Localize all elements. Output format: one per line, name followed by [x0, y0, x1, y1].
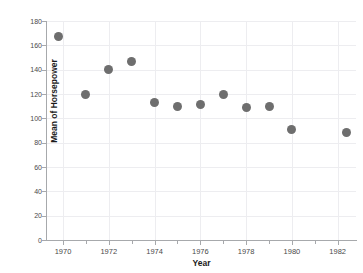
y-axis-tick: [42, 191, 47, 192]
x-axis-tick: [338, 241, 339, 245]
x-axis-tick-label: 1972: [89, 247, 129, 256]
y-axis-line: [46, 21, 47, 241]
x-axis-minor-tick: [269, 241, 270, 244]
y-axis-tick-label: 180: [4, 18, 42, 25]
y-axis-tick-label: 20: [4, 212, 42, 219]
y-axis-tick-label: 80: [4, 139, 42, 146]
x-axis-tick: [200, 241, 201, 245]
y-axis-tick-label: 160: [4, 42, 42, 49]
data-point: [173, 102, 182, 111]
x-axis-minor-tick: [177, 241, 178, 244]
data-point: [81, 90, 90, 99]
gridline-vertical: [109, 21, 110, 240]
gridline-horizontal: [47, 70, 356, 71]
gridline-horizontal: [47, 21, 356, 22]
data-point: [196, 100, 205, 109]
gridline-vertical: [200, 21, 201, 240]
y-axis-tick: [42, 118, 47, 119]
x-axis-title: Year: [47, 258, 356, 268]
x-axis-minor-tick: [315, 241, 316, 244]
x-axis-tick: [63, 241, 64, 245]
y-axis-tick: [42, 143, 47, 144]
x-axis-tick-label: 1982: [318, 247, 358, 256]
y-axis-tick-labels: 020406080100120140160180: [0, 0, 42, 273]
data-point: [104, 65, 113, 74]
x-axis-tick-label: 1978: [226, 247, 266, 256]
y-axis-tick: [42, 21, 47, 22]
plot-area: [47, 21, 356, 240]
y-axis-tick: [42, 45, 47, 46]
x-axis-minor-tick: [86, 241, 87, 244]
data-point: [287, 125, 296, 134]
x-axis-tick: [292, 241, 293, 245]
gridline-vertical: [63, 21, 64, 240]
y-axis-tick-label: 140: [4, 66, 42, 73]
gridline-horizontal: [47, 191, 356, 192]
gridline-horizontal: [47, 94, 356, 95]
y-axis-tick-label: 100: [4, 115, 42, 122]
data-point: [54, 32, 63, 41]
y-axis-tick-label: 120: [4, 91, 42, 98]
y-axis-tick: [42, 94, 47, 95]
y-axis-tick-label: 60: [4, 164, 42, 171]
cropped-header-strip: —— ·· —: [0, 0, 363, 11]
x-axis-tick-label: 1980: [272, 247, 312, 256]
y-axis-tick-label: 40: [4, 188, 42, 195]
scatter-chart: —— ·· — 020406080100120140160180 1970197…: [0, 0, 363, 273]
data-point: [242, 103, 251, 112]
x-axis-tick-label: 1976: [180, 247, 220, 256]
gridline-vertical: [338, 21, 339, 240]
ghost-text-c: —: [118, 0, 125, 2]
y-axis-tick: [42, 167, 47, 168]
x-axis-tick-label: 1974: [135, 247, 175, 256]
data-point: [219, 90, 228, 99]
gridline-vertical: [155, 21, 156, 240]
data-point: [150, 98, 159, 107]
gridline-horizontal: [47, 143, 356, 144]
x-axis-tick-label: 1970: [43, 247, 83, 256]
data-point: [342, 128, 351, 137]
y-axis-tick: [42, 70, 47, 71]
x-axis-minor-tick: [223, 241, 224, 244]
y-axis-tick: [42, 216, 47, 217]
x-axis-tick: [109, 241, 110, 245]
gridline-horizontal: [47, 118, 356, 119]
gridline-vertical: [246, 21, 247, 240]
y-axis-tick: [42, 240, 47, 241]
gridline-horizontal: [47, 216, 356, 217]
x-axis-line: [46, 240, 357, 241]
x-axis-tick: [155, 241, 156, 245]
x-axis-minor-tick: [132, 241, 133, 244]
data-point: [265, 102, 274, 111]
y-axis-tick-label: 0: [4, 237, 42, 244]
data-point: [127, 57, 136, 66]
gridline-horizontal: [47, 45, 356, 46]
y-axis-title: Mean of Horsepower: [49, 41, 59, 161]
gridline-horizontal: [47, 167, 356, 168]
x-axis-tick: [246, 241, 247, 245]
